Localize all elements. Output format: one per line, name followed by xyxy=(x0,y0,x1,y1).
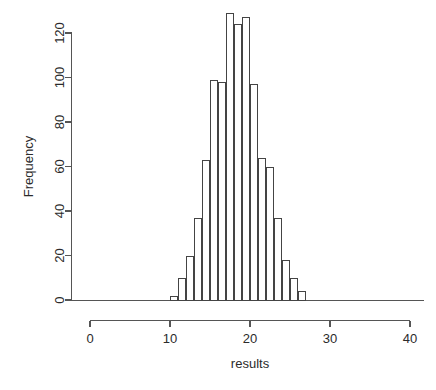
x-tick-label: 40 xyxy=(403,331,417,346)
x-tick-label: 10 xyxy=(163,331,177,346)
y-tick-label: 100 xyxy=(52,67,67,89)
x-tick-label: 30 xyxy=(323,331,337,346)
plot-canvas: 020406080100120Frequency010203040results xyxy=(0,0,436,390)
histogram-bar xyxy=(283,260,290,300)
histogram-bar xyxy=(259,158,266,300)
x-axis: 010203040 xyxy=(86,321,417,346)
histogram-bar xyxy=(195,218,202,300)
histogram-bar xyxy=(219,82,226,300)
histogram-bars xyxy=(171,13,306,300)
histogram-bar xyxy=(171,296,178,300)
histogram-bar xyxy=(291,278,298,300)
x-axis-title: results xyxy=(231,356,270,371)
histogram-bar xyxy=(243,18,250,301)
y-tick-label: 120 xyxy=(52,22,67,44)
histogram-bar xyxy=(235,25,242,301)
y-axis-title: Frequency xyxy=(21,135,36,197)
histogram-bar xyxy=(211,80,218,300)
x-tick-label: 20 xyxy=(243,331,257,346)
histogram-bar xyxy=(275,218,282,300)
y-tick-label: 80 xyxy=(52,115,67,129)
y-tick-label: 60 xyxy=(52,159,67,173)
x-tick-label: 0 xyxy=(86,331,93,346)
histogram-bar xyxy=(227,13,234,300)
y-tick-label: 20 xyxy=(52,248,67,262)
y-tick-label: 0 xyxy=(52,296,67,303)
histogram-bar xyxy=(179,278,186,300)
histogram-bar xyxy=(267,167,274,301)
y-tick-label: 40 xyxy=(52,204,67,218)
histogram-bar xyxy=(251,85,258,301)
histogram-bar xyxy=(299,292,306,301)
histogram-bar xyxy=(187,256,194,301)
histogram-plot: 020406080100120Frequency010203040results xyxy=(0,0,436,390)
histogram-bar xyxy=(203,160,210,300)
y-axis: 020406080100120 xyxy=(52,22,72,303)
